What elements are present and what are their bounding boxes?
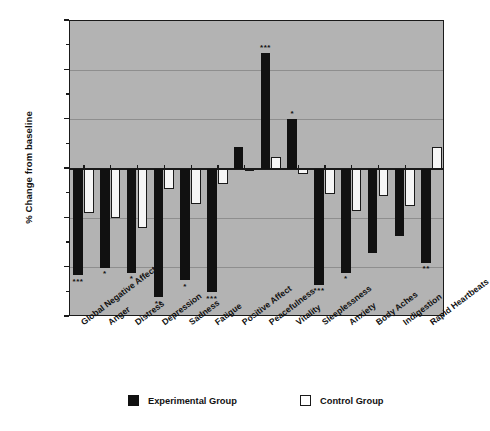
x-tick-mark: [191, 165, 192, 169]
legend-label-experimental: Experimental Group: [148, 396, 237, 406]
bar-experimental: [154, 169, 164, 297]
bar-experimental: [207, 169, 217, 292]
significance-marker: *: [174, 282, 196, 291]
significance-marker: *: [281, 109, 303, 118]
x-tick-mark: [298, 165, 299, 169]
bar-experimental: [341, 169, 351, 273]
x-tick-mark: [137, 165, 138, 169]
x-tick-mark: [217, 165, 218, 169]
bar-experimental: [73, 169, 83, 275]
bar-experimental: [421, 169, 431, 263]
y-tick-mark: [64, 118, 69, 119]
bar-control: [245, 169, 255, 171]
significance-marker: *: [94, 269, 116, 278]
x-tick-mark: [378, 165, 379, 169]
x-tick-mark: [324, 165, 325, 169]
bar-experimental: [395, 169, 405, 236]
x-tick-mark: [83, 165, 84, 169]
x-tick-mark: [164, 165, 165, 169]
bar-experimental: [314, 169, 324, 285]
x-tick-mark: [432, 165, 433, 169]
bar-control: [191, 169, 201, 204]
y-tick-mark: [64, 167, 69, 168]
bar-control: [298, 169, 308, 174]
y-axis-title: % Change from baseline: [23, 78, 34, 258]
bar-control: [164, 169, 174, 189]
y-tick-mark-minor: [66, 143, 69, 144]
x-tick-mark: [110, 165, 111, 169]
control-swatch-icon: [300, 395, 311, 406]
bar-control: [352, 169, 362, 211]
bar-experimental: [180, 169, 190, 280]
legend-item-control: Control Group: [300, 395, 384, 406]
bar-experimental: [261, 53, 271, 169]
y-tick-mark-minor: [66, 44, 69, 45]
y-tick-mark: [64, 69, 69, 70]
x-tick-mark: [271, 165, 272, 169]
y-tick-mark-minor: [66, 93, 69, 94]
y-tick-mark: [64, 266, 69, 267]
bar-control: [325, 169, 335, 194]
y-tick-mark-minor: [66, 241, 69, 242]
legend-item-experimental: Experimental Group: [128, 395, 237, 406]
x-tick-mark: [244, 165, 245, 169]
bar-control: [405, 169, 415, 206]
bar-control: [111, 169, 121, 218]
y-tick-mark: [64, 217, 69, 218]
bar-control: [84, 169, 94, 213]
significance-marker: *: [335, 274, 357, 283]
bar-experimental: [127, 169, 137, 273]
y-tick-mark: [64, 19, 69, 20]
significance-marker: ***: [67, 277, 89, 286]
experimental-swatch-icon: [128, 395, 139, 406]
x-tick-mark: [351, 165, 352, 169]
bar-control: [271, 157, 281, 169]
y-tick-mark-minor: [66, 291, 69, 292]
bar-control: [432, 147, 442, 169]
legend-label-control: Control Group: [320, 396, 384, 406]
bar-control: [379, 169, 389, 196]
x-tick-mark: [405, 165, 406, 169]
bar-control: [218, 169, 228, 184]
y-tick-mark-minor: [66, 192, 69, 193]
bar-experimental: [287, 119, 297, 169]
bar-experimental: [100, 169, 110, 268]
bar-experimental: [368, 169, 378, 253]
significance-marker: ***: [255, 43, 277, 52]
plot-area: *********************: [69, 20, 444, 316]
chart-legend: Experimental Group Control Group: [0, 392, 460, 418]
bar-experimental: [234, 147, 244, 169]
x-axis-labels: Global Negative AffectAngerDistressDepre…: [0, 316, 460, 394]
bar-control: [138, 169, 148, 228]
significance-marker: **: [415, 264, 437, 273]
